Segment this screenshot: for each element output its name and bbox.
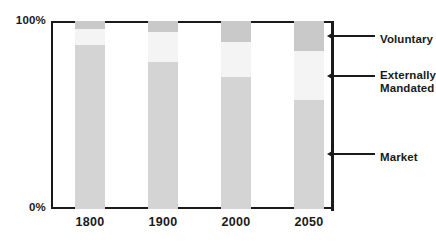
- bar-2050[interactable]: [294, 21, 324, 209]
- bar-segment-market-2000[interactable]: [221, 77, 251, 209]
- x-tick-label-1800: 1800: [60, 215, 120, 229]
- bar-2000[interactable]: [221, 21, 251, 209]
- callout-line-voluntary: [329, 35, 375, 37]
- x-tick-label-2050: 2050: [279, 215, 339, 229]
- bar-1900[interactable]: [148, 21, 178, 209]
- plot-right-axis-rule: [331, 21, 334, 211]
- y-axis-label-bottom: 0%: [8, 201, 46, 213]
- callout-arrow-externally-mandated: [327, 72, 334, 80]
- y-axis-label-top: 100%: [8, 14, 46, 26]
- callout-line-externally-mandated: [329, 75, 375, 77]
- bar-1800[interactable]: [75, 21, 105, 209]
- callout-line-market: [329, 153, 375, 155]
- bar-segment-voluntary-2000[interactable]: [221, 21, 251, 42]
- bar-segment-voluntary-1900[interactable]: [148, 21, 178, 32]
- bar-segment-externally-mandated-1800[interactable]: [75, 29, 105, 46]
- callout-label-market: Market: [380, 151, 418, 164]
- bar-segment-market-1800[interactable]: [75, 45, 105, 209]
- bar-segment-externally-mandated-1900[interactable]: [148, 32, 178, 62]
- bar-segment-market-2050[interactable]: [294, 100, 324, 209]
- x-tick-label-2000: 2000: [206, 215, 266, 229]
- bar-segment-externally-mandated-2050[interactable]: [294, 51, 324, 100]
- callout-label-externally-mandated: Externally Mandated: [380, 69, 436, 95]
- bar-segment-voluntary-1800[interactable]: [75, 21, 105, 29]
- callout-arrow-voluntary: [327, 32, 334, 40]
- bar-segment-voluntary-2050[interactable]: [294, 21, 324, 51]
- x-tick-label-1900: 1900: [133, 215, 193, 229]
- bar-segment-market-1900[interactable]: [148, 62, 178, 209]
- bar-segment-externally-mandated-2000[interactable]: [221, 42, 251, 78]
- callout-arrow-market: [327, 150, 334, 158]
- callout-label-voluntary: Voluntary: [380, 33, 433, 46]
